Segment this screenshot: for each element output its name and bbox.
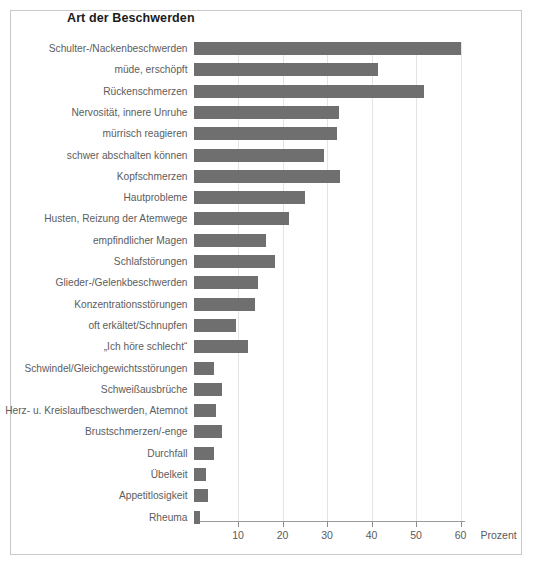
bar (194, 511, 201, 524)
chart-row: Kopfschmerzen (0, 170, 535, 191)
chart-row: Brustschmerzen/-enge (0, 425, 535, 446)
category-label: Schweißausbrüche (101, 383, 188, 396)
category-label: Appetitlosigkeit (119, 489, 188, 502)
chart-row: Schlafstörungen (0, 255, 535, 276)
bar (194, 319, 237, 332)
chart-row: Schulter-/Nackenbeschwerden (0, 42, 535, 63)
chart-row: oft erkältet/Schnupfen (0, 319, 535, 340)
bar (194, 85, 425, 98)
bar (194, 255, 275, 268)
category-label: Kopfschmerzen (117, 170, 188, 183)
category-label: Hautprobleme (124, 191, 188, 204)
chart-row: Rheuma (0, 511, 535, 532)
bar (194, 127, 337, 140)
bar (194, 212, 289, 225)
chart-row: Konzentrationsstörungen (0, 298, 535, 319)
bar (194, 170, 340, 183)
bar (194, 276, 259, 289)
chart-row: Schwindel/Gleichgewichtsstörungen (0, 362, 535, 383)
chart-row: Husten, Reizung der Atemwege (0, 212, 535, 233)
chart-row: Appetitlosigkeit (0, 489, 535, 510)
bar (194, 404, 216, 417)
category-label: Glieder-/Gelenkbeschwerden (56, 276, 188, 289)
bar (194, 340, 249, 353)
category-label: Husten, Reizung der Atemwege (44, 212, 187, 225)
category-label: Schwindel/Gleichgewichtsstörungen (24, 362, 187, 375)
category-label: „Ich höre schlecht“ (104, 340, 188, 353)
chart-row: empfindlicher Magen (0, 234, 535, 255)
chart-row: „Ich höre schlecht“ (0, 340, 535, 361)
chart-row: Hautprobleme (0, 191, 535, 212)
category-label: oft erkältet/Schnupfen (88, 319, 187, 332)
category-label: Übelkeit (151, 468, 188, 481)
bar (194, 489, 209, 502)
chart-row: Herz- u. Kreislaufbeschwerden, Atemnot (0, 404, 535, 425)
category-label: müde, erschöpft (114, 63, 187, 76)
category-label: Schlafstörungen (114, 255, 188, 268)
chart-row: Übelkeit (0, 468, 535, 489)
bar (194, 63, 379, 76)
bar (194, 468, 206, 481)
category-label: Rückenschmerzen (103, 85, 187, 98)
chart-row: Nervosität, innere Unruhe (0, 106, 535, 127)
bar (194, 383, 222, 396)
chart-row: Rückenschmerzen (0, 85, 535, 106)
bar (194, 106, 340, 119)
chart-row: schwer abschalten können (0, 149, 535, 170)
bar (194, 425, 222, 438)
bar-chart-plot: 102030405060ProzentSchulter-/Nackenbesch… (0, 0, 535, 572)
category-label: Brustschmerzen/-enge (85, 425, 188, 438)
bar (194, 447, 214, 460)
category-label: Nervosität, innere Unruhe (71, 106, 187, 119)
bar (194, 234, 266, 247)
bar (194, 42, 461, 55)
category-label: Rheuma (149, 511, 188, 524)
category-label: empfindlicher Magen (93, 234, 188, 247)
chart-row: mürrisch reagieren (0, 127, 535, 148)
bar (194, 298, 255, 311)
category-label: Schulter-/Nackenbeschwerden (49, 42, 188, 55)
category-label: Herz- u. Kreislaufbeschwerden, Atemnot (5, 404, 187, 417)
chart-row: Schweißausbrüche (0, 383, 535, 404)
bar (194, 149, 324, 162)
category-label: schwer abschalten können (67, 149, 188, 162)
chart-row: Durchfall (0, 447, 535, 468)
chart-row: müde, erschöpft (0, 63, 535, 84)
category-label: Durchfall (147, 447, 187, 460)
bar (194, 191, 305, 204)
category-label: Konzentrationsstörungen (74, 298, 187, 311)
chart-row: Glieder-/Gelenkbeschwerden (0, 276, 535, 297)
bar (194, 362, 214, 375)
category-label: mürrisch reagieren (103, 127, 188, 140)
